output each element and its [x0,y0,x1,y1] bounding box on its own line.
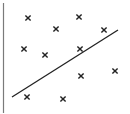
regression-line [12,30,118,97]
x-marker-icon [76,14,81,19]
x-marker-icon [77,46,82,51]
x-marker-icon [78,73,83,78]
x-marker-icon [112,68,117,73]
x-marker-icon [42,52,47,57]
x-marker-icon [21,46,26,51]
x-marker-icon [53,26,58,31]
scatter-plot [0,0,130,114]
x-marker-icon [24,94,29,99]
x-marker-icon [25,15,30,20]
x-marker-icon [60,96,65,101]
x-marker-icon [101,27,106,32]
data-markers [21,14,117,101]
